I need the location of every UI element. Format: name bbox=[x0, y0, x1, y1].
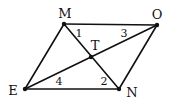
point-n-dot bbox=[117, 87, 121, 91]
angle-label-3: 3 bbox=[121, 27, 128, 40]
point-label-e: E bbox=[8, 83, 18, 98]
point-label-t: T bbox=[91, 38, 100, 53]
point-label-n: N bbox=[126, 85, 137, 100]
point-t-dot bbox=[89, 55, 93, 59]
point-label-m: M bbox=[58, 6, 71, 21]
parallelogram-diagram: MONET 1342 bbox=[0, 0, 171, 100]
point-o-dot bbox=[155, 23, 159, 27]
segment-mo bbox=[64, 24, 157, 25]
point-e-dot bbox=[23, 87, 27, 91]
angle-label-2: 2 bbox=[101, 75, 108, 88]
point-label-o: O bbox=[152, 7, 163, 22]
point-m-dot bbox=[62, 22, 66, 26]
angle-label-1: 1 bbox=[76, 27, 83, 40]
angle-label-4: 4 bbox=[56, 75, 63, 88]
